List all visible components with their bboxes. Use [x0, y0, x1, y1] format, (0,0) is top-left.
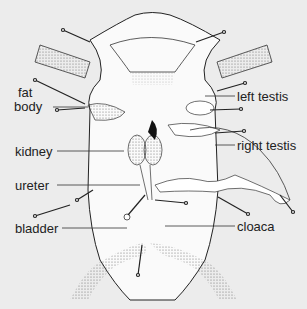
right-leg [197, 262, 237, 300]
left-arm [35, 45, 90, 78]
frog-dissection-diagram: fat body kidney ureter bladder left test… [0, 0, 307, 309]
label-kidney: kidney [15, 145, 53, 158]
label-right-testis: right testis [237, 139, 296, 152]
label-ureter: ureter [15, 179, 49, 192]
left-testis-organ [186, 101, 214, 115]
label-cloaca: cloaca [237, 220, 275, 233]
label-fat-body-line2: body [14, 100, 42, 113]
bladder-organ [124, 214, 130, 220]
label-left-testis: left testis [237, 90, 288, 103]
kidney-left [128, 135, 146, 165]
label-bladder: bladder [15, 222, 58, 235]
label-fat-body-line1: fat [18, 86, 32, 99]
left-leg [70, 262, 110, 300]
kidney-right [144, 135, 162, 165]
right-arm [217, 45, 272, 78]
